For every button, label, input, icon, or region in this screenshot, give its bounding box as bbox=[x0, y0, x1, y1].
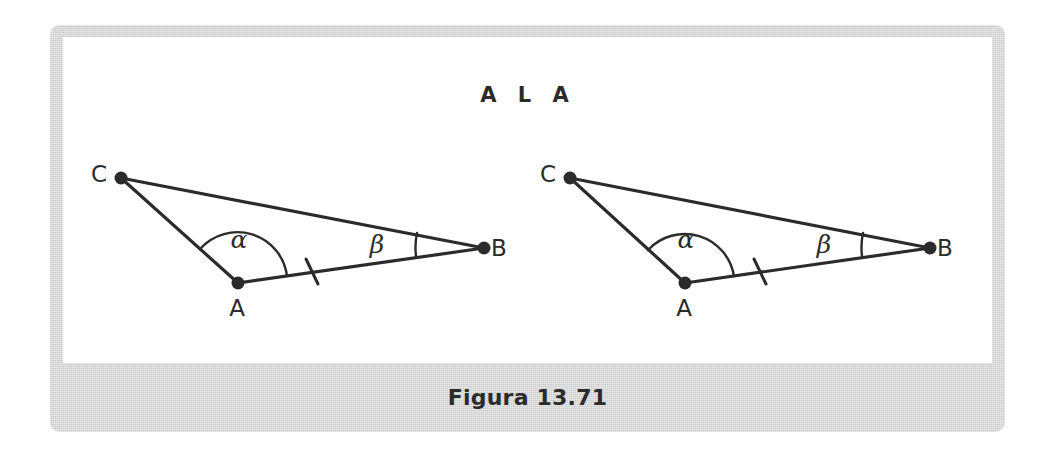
diagram-title: A L A bbox=[480, 83, 576, 107]
vertex-dot-C-left bbox=[115, 172, 128, 185]
edge-CA-left bbox=[121, 178, 238, 283]
vertex-dot-B-right bbox=[924, 242, 937, 255]
edge-CB-left bbox=[121, 178, 484, 248]
angle-label-alpha-left: α bbox=[231, 225, 248, 254]
vertex-label-A-left: A bbox=[229, 295, 245, 321]
vertex-label-B-left: B bbox=[491, 235, 507, 261]
vertex-dot-B-left bbox=[478, 242, 491, 255]
edge-CA-right bbox=[570, 178, 685, 283]
edge-AB-right bbox=[685, 248, 930, 283]
figure-caption: Figura 13.71 bbox=[448, 385, 607, 410]
figure-caption-bar: Figura 13.71 bbox=[50, 363, 1005, 432]
vertex-label-B-right: B bbox=[937, 235, 953, 261]
triangle-left: C A B α β bbox=[91, 161, 507, 321]
angle-label-beta-right: β bbox=[816, 230, 831, 259]
angle-label-beta-left: β bbox=[369, 230, 384, 259]
vertex-dot-A-left bbox=[232, 277, 245, 290]
angle-arc-beta-right bbox=[861, 233, 863, 256]
figure-white-panel: A L A bbox=[63, 37, 992, 363]
edge-CB-right bbox=[570, 178, 930, 248]
vertex-label-C-left: C bbox=[91, 161, 107, 187]
vertex-label-A-right: A bbox=[676, 295, 692, 321]
triangle-right: C A B α β bbox=[540, 161, 953, 321]
edge-AB-left bbox=[238, 248, 484, 283]
vertex-label-C-right: C bbox=[540, 161, 556, 187]
geometry-diagram: A L A bbox=[63, 37, 992, 363]
angle-arc-beta-left bbox=[415, 233, 417, 256]
vertex-dot-A-right bbox=[679, 277, 692, 290]
vertex-dot-C-right bbox=[564, 172, 577, 185]
figure-container: A L A bbox=[0, 0, 1056, 454]
angle-label-alpha-right: α bbox=[678, 225, 695, 254]
figure-frame: A L A bbox=[50, 25, 1005, 432]
